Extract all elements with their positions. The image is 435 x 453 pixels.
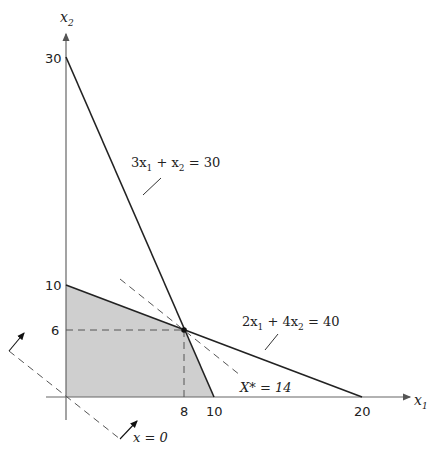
zero-contour-label: x = 0 <box>133 430 168 445</box>
tick-y-30: 30 <box>45 51 62 66</box>
equation-constraint-1: 3x1 + x2 = 30 <box>131 155 220 173</box>
tick-y-6: 6 <box>51 323 59 338</box>
objective-direction-arrow-top <box>9 333 24 351</box>
feasible-region <box>66 285 214 397</box>
lp-chart: x2 x1 30 10 6 8 10 20 3x1 + x2 = 30 2x1 … <box>0 0 435 453</box>
x-axis-label: x1 <box>414 392 428 411</box>
optimal-point <box>181 327 187 333</box>
equation-constraint-2: 2x1 + 4x2 = 40 <box>242 314 340 332</box>
leader-eq2 <box>265 334 278 350</box>
tick-x-10: 10 <box>206 404 223 419</box>
leader-eq1 <box>143 178 161 195</box>
tick-y-10: 10 <box>45 278 62 293</box>
tick-x-8: 8 <box>180 404 188 419</box>
y-axis-label: x2 <box>60 9 74 28</box>
tick-x-20: 20 <box>354 404 371 419</box>
optimum-label: X* = 14 <box>239 380 291 395</box>
